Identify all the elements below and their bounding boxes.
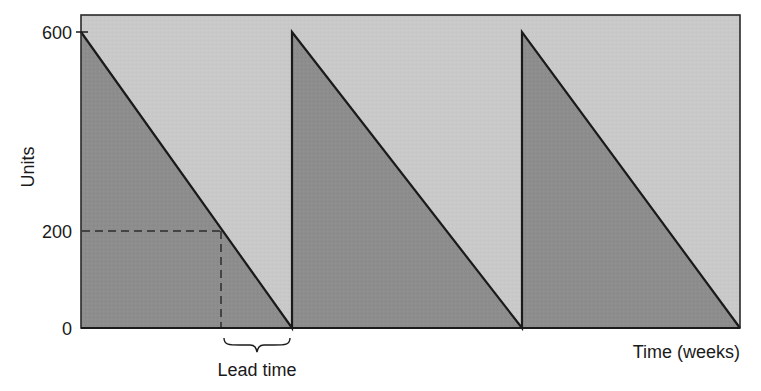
y-tick-label-0: 0	[62, 319, 72, 339]
lead-time-label: Lead time	[217, 360, 296, 380]
y-tick-label-600: 600	[42, 23, 72, 43]
y-axis-label: Units	[18, 146, 38, 187]
inventory-sawtooth-chart: 600 200 0 Units Time (weeks) Lead time	[0, 0, 761, 391]
lead-time-brace-icon	[224, 338, 290, 352]
x-axis-label: Time (weeks)	[633, 342, 740, 362]
chart-svg: 600 200 0 Units Time (weeks) Lead time	[0, 0, 761, 391]
y-tick-label-200: 200	[42, 222, 72, 242]
